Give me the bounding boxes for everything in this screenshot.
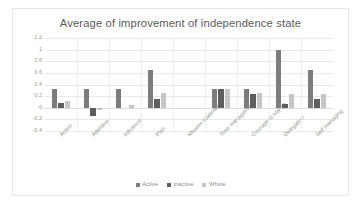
legend-item[interactable]: Active [136, 182, 158, 188]
bar-group [45, 38, 77, 131]
bar-group [77, 38, 109, 131]
bar[interactable] [148, 70, 153, 108]
bar[interactable] [65, 101, 70, 107]
bar[interactable] [161, 93, 166, 108]
bar[interactable] [314, 99, 319, 108]
bar[interactable] [212, 89, 217, 108]
legend-item[interactable]: Inactive [167, 182, 193, 188]
bar-group [301, 38, 333, 131]
plot-area: 1.210.80.60.40.20-0.2-0.4ActionAttention… [45, 38, 333, 131]
chart-card: Average of improvement of independence s… [12, 8, 349, 196]
bar[interactable] [129, 105, 134, 108]
y-axis-tick-label: 0.4 [34, 82, 42, 88]
bar[interactable] [90, 108, 95, 117]
bar-group [269, 38, 301, 131]
bar[interactable] [97, 108, 102, 110]
bar[interactable] [218, 89, 223, 108]
bar[interactable] [52, 89, 57, 108]
y-axis-tick-label: 1.2 [34, 35, 42, 41]
legend-swatch-icon [136, 183, 140, 187]
bar-group [141, 38, 173, 131]
y-axis-tick-label: 0.8 [34, 58, 42, 64]
bar[interactable] [308, 70, 313, 108]
bar[interactable] [58, 103, 63, 108]
legend-label: Active [142, 182, 158, 188]
bar-group [173, 38, 205, 131]
bar[interactable] [250, 94, 255, 107]
y-axis-tick-label: -0.2 [32, 117, 42, 123]
bar[interactable] [154, 99, 159, 108]
y-axis-tick-label: 1 [39, 47, 42, 53]
bar[interactable] [321, 94, 326, 108]
bar[interactable] [116, 89, 121, 108]
chart-title: Average of improvement of independence s… [13, 17, 348, 29]
bar[interactable] [282, 104, 287, 108]
legend-swatch-icon [202, 183, 206, 187]
y-axis-tick-label: 0 [39, 105, 42, 111]
bar-group [205, 38, 237, 131]
bar[interactable] [289, 94, 294, 108]
bar-group [237, 38, 269, 131]
y-axis-tick-label: -0.4 [32, 128, 42, 134]
legend-label: Whole [209, 182, 225, 188]
bar-group [109, 38, 141, 131]
bar[interactable] [225, 89, 230, 108]
legend-swatch-icon [167, 183, 171, 187]
legend-label: Inactive [173, 182, 193, 188]
bar[interactable] [84, 89, 89, 108]
chart-legend: ActiveInactiveWhole [13, 182, 348, 188]
bar[interactable] [244, 89, 249, 108]
bar[interactable] [276, 50, 281, 108]
bar[interactable] [257, 93, 262, 108]
y-axis-tick-label: 0.2 [34, 93, 42, 99]
y-axis-tick-label: 0.6 [34, 70, 42, 76]
legend-item[interactable]: Whole [202, 182, 225, 188]
